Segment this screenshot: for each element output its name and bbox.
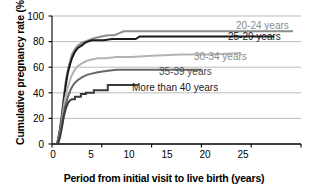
chart-figure: Cumulative pregnancy rate (%) Period fro… <box>0 0 310 191</box>
x-tick-label: 20 <box>193 149 217 160</box>
series-line <box>52 53 241 144</box>
x-tick-label: 0 <box>41 149 65 160</box>
x-tick-label: 5 <box>79 149 103 160</box>
series-line <box>52 70 201 144</box>
x-tick-label: 15 <box>155 149 179 160</box>
y-tick-label: 40 <box>18 88 44 99</box>
x-tick-label: 25 <box>231 149 255 160</box>
y-tick-label: 80 <box>18 36 44 47</box>
y-tick-label: 60 <box>18 62 44 73</box>
y-tick-label: 100 <box>18 11 44 22</box>
x-tick-label: 10 <box>117 149 141 160</box>
series-label: 20-24 years <box>236 20 289 31</box>
series-label: More than 40 years <box>132 82 218 93</box>
x-axis-title: Period from initial visit to live birth … <box>28 172 300 184</box>
series-label: 30-34 years <box>194 51 247 62</box>
y-tick-label: 20 <box>18 113 44 124</box>
series-label: 25-29 years <box>228 31 281 42</box>
series-label: 35-39 years <box>159 66 212 77</box>
